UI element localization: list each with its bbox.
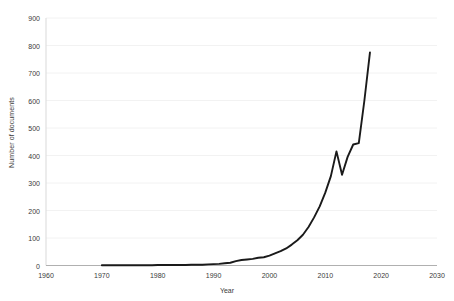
x-tick-label: 2020 <box>373 272 389 279</box>
x-tick-label: 1960 <box>38 272 54 279</box>
x-axis-title-label: Year <box>220 287 234 294</box>
x-tick-label: 2000 <box>262 272 278 279</box>
x-tick-label: 2030 <box>429 272 445 279</box>
x-axis-tick-labels: 19601970198019902000201020202030 <box>0 0 454 301</box>
x-tick-label: 1970 <box>94 272 110 279</box>
chart-container: Number of documents 01002003004005006007… <box>0 0 454 301</box>
x-axis-title: Year <box>0 287 454 294</box>
x-tick-label: 1990 <box>206 272 222 279</box>
x-tick-label: 1980 <box>150 272 166 279</box>
x-tick-label: 2010 <box>317 272 333 279</box>
